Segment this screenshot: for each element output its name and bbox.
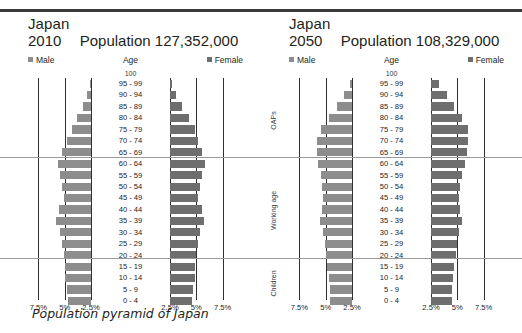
pyramid-row: 40 - 44 (0, 204, 261, 215)
pyramid-row: 45 - 49 (0, 192, 261, 203)
pyramid-figure-body: Japan 2010 Population 127,352,000 Male F… (0, 12, 522, 300)
age-group-label: 95 - 99 (261, 78, 522, 89)
age-group-label: 40 - 44 (261, 204, 522, 215)
age-group-label: 80 - 84 (261, 112, 522, 123)
age-group-label: 30 - 34 (0, 227, 261, 238)
age-group-label: 20 - 24 (261, 250, 522, 261)
panel-2050-population-title: Population 108,329,000 (325, 33, 515, 49)
panel-2050-header: Japan 2050 Population 108,329,000 Male F… (261, 12, 522, 76)
pyramid-row: 5 - 9 (261, 284, 522, 295)
plot-2010: 95 - 9990 - 9485 - 8980 - 8475 - 7970 - … (0, 78, 261, 300)
age-group-label: 45 - 49 (261, 192, 522, 203)
pyramid-row: 95 - 99 (0, 78, 261, 89)
age-group-label: 95 - 99 (0, 78, 261, 89)
pyramid-row: 15 - 19 (261, 261, 522, 272)
pyramid-row: 35 - 39 (261, 215, 522, 226)
pyramid-row: 30 - 34 (261, 227, 522, 238)
age-group-label: 15 - 19 (261, 261, 522, 272)
pyramid-row: 55 - 59 (261, 170, 522, 181)
pyramid-row: 20 - 24 (0, 250, 261, 261)
age-group-label: 5 - 9 (0, 284, 261, 295)
panel-2010-year: 2010 (28, 33, 61, 49)
age-group-label: 20 - 24 (0, 250, 261, 261)
age-group-label: 25 - 29 (261, 238, 522, 249)
pyramid-row: 85 - 89 (0, 101, 261, 112)
age-group-label: 85 - 89 (261, 101, 522, 112)
pyramid-row: 20 - 24 (261, 250, 522, 261)
age-group-label: 10 - 14 (261, 272, 522, 283)
axis-tick-right-2.5%: 2.5% (422, 302, 439, 313)
age-group-label: 5 - 9 (261, 284, 522, 295)
pyramid-row: 75 - 79 (0, 124, 261, 135)
age-group-label: 55 - 59 (0, 170, 261, 181)
axis-tick-right-7.5%: 7.5% (475, 302, 492, 313)
pyramid-row: 60 - 64 (0, 158, 261, 169)
rows-2010: 95 - 9990 - 9485 - 8980 - 8475 - 7970 - … (0, 78, 261, 307)
band-label-children: Children (270, 259, 277, 309)
pyramid-row: 60 - 64 (261, 158, 522, 169)
pyramid-row: 50 - 54 (261, 181, 522, 192)
rows-2050: 95 - 9990 - 9485 - 8980 - 8475 - 7970 - … (261, 78, 522, 307)
age-group-label: 90 - 94 (0, 89, 261, 100)
divider-working-children (0, 258, 522, 259)
age-group-label: 45 - 49 (0, 192, 261, 203)
axis-tick-right-7.5%: 7.5% (214, 302, 231, 313)
panel-2050-year: 2050 (289, 33, 322, 49)
age-group-label: 70 - 74 (0, 135, 261, 146)
age-group-label: 25 - 29 (0, 238, 261, 249)
age-group-label: 40 - 44 (0, 204, 261, 215)
pyramid-row: 10 - 14 (261, 272, 522, 283)
pyramid-row: 5 - 9 (0, 284, 261, 295)
age-group-label: 70 - 74 (261, 135, 522, 146)
panel-2050-country: Japan (289, 16, 330, 32)
pyramid-row: 25 - 29 (0, 238, 261, 249)
pyramid-row: 15 - 19 (0, 261, 261, 272)
pyramid-row: 35 - 39 (0, 215, 261, 226)
axis-tick-left-5%: 5% (320, 302, 331, 313)
figure-caption: Population pyramid of Japan (32, 306, 209, 321)
age-group-label: 85 - 89 (0, 101, 261, 112)
pyramid-row: 80 - 84 (261, 112, 522, 123)
top-age-2050: 100 (261, 69, 522, 78)
pyramid-row: 50 - 54 (0, 181, 261, 192)
panel-2010: Japan 2010 Population 127,352,000 Male F… (0, 12, 261, 300)
age-header-2010: Age (0, 55, 261, 65)
age-group-label: 10 - 14 (0, 272, 261, 283)
population-pyramid-figure: { "caption": "Population pyramid of Japa… (0, 0, 522, 333)
pyramid-row: 70 - 74 (261, 135, 522, 146)
pyramid-row: 85 - 89 (261, 101, 522, 112)
plot-2050: 95 - 9990 - 9485 - 8980 - 8475 - 7970 - … (261, 78, 522, 300)
pyramid-row: 25 - 29 (261, 238, 522, 249)
pyramid-row: 80 - 84 (0, 112, 261, 123)
axis-tick-right-5%: 5% (452, 302, 463, 313)
pyramid-row: 40 - 44 (261, 204, 522, 215)
age-group-label: 90 - 94 (261, 89, 522, 100)
band-label-working-age: Working age (270, 184, 277, 238)
pyramid-row: 90 - 94 (261, 89, 522, 100)
pyramid-row: 75 - 79 (261, 124, 522, 135)
axis-tick-left-7.5%: 7.5% (291, 302, 308, 313)
age-group-label: 60 - 64 (261, 158, 522, 169)
panel-2010-country: Japan (28, 16, 69, 32)
axis-tick-left-2.5%: 2.5% (343, 302, 360, 313)
age-header-2050: Age (261, 55, 522, 65)
pyramid-row: 70 - 74 (0, 135, 261, 146)
pyramid-row: 10 - 14 (0, 272, 261, 283)
age-group-label: 30 - 34 (261, 227, 522, 238)
panel-2010-header: Japan 2010 Population 127,352,000 Male F… (0, 12, 261, 76)
age-group-label: 15 - 19 (0, 261, 261, 272)
band-label-oaps: OAPs (270, 97, 277, 145)
age-group-label: 50 - 54 (0, 181, 261, 192)
age-group-label: 35 - 39 (261, 215, 522, 226)
age-group-label: 50 - 54 (261, 181, 522, 192)
pyramid-row: 30 - 34 (0, 227, 261, 238)
panel-2010-population-title: Population 127,352,000 (64, 33, 254, 49)
divider-oaps-working (0, 157, 522, 158)
axis-2050: 7.5%5%2.5%2.5%5%7.5% (261, 302, 522, 316)
age-group-label: 75 - 79 (0, 124, 261, 135)
pyramid-row: 45 - 49 (261, 192, 522, 203)
pyramid-row: 90 - 94 (0, 89, 261, 100)
age-group-label: 55 - 59 (261, 170, 522, 181)
age-group-label: 35 - 39 (0, 215, 261, 226)
age-group-label: 60 - 64 (0, 158, 261, 169)
